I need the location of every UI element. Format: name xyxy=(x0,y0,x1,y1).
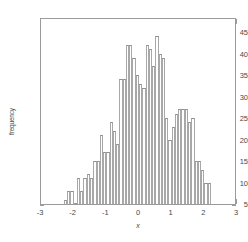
x-tick-mark xyxy=(236,199,237,204)
histogram-bar xyxy=(208,183,211,204)
x-tick-label: 0 xyxy=(123,208,153,217)
y-tick-mark-right xyxy=(232,205,236,206)
y-axis-label: frequency xyxy=(8,108,15,135)
x-tick-mark-top xyxy=(236,19,237,24)
histogram-bars xyxy=(41,19,235,204)
x-tick-label: -2 xyxy=(58,208,88,217)
x-axis-label: x xyxy=(40,222,236,230)
plot-area xyxy=(40,18,236,205)
x-tick-label: 2 xyxy=(188,208,218,217)
x-tick-label: -3 xyxy=(25,208,55,217)
x-tick-label: 3 xyxy=(221,208,248,217)
x-tick-label: 1 xyxy=(156,208,186,217)
histogram-figure: frequency 51015202530354045 -3-2-10123 x xyxy=(0,0,248,242)
x-tick-label: -1 xyxy=(90,208,120,217)
y-axis-label-wrapper: frequency xyxy=(4,0,18,242)
y-tick-mark xyxy=(40,205,44,206)
